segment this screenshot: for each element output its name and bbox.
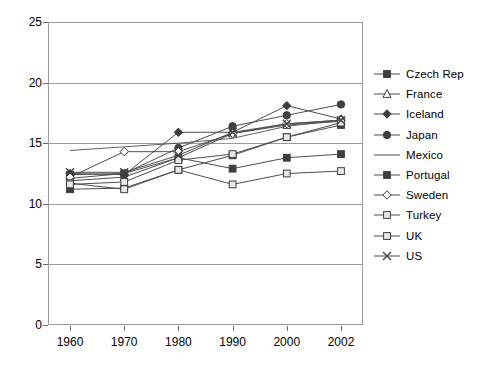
series-japan [66,101,344,182]
legend-item-label: Japan [406,129,438,141]
legend-item-label: Sweden [406,189,448,201]
legend-item-iceland[interactable]: Iceland [372,104,484,124]
legend-item-label: Czech Rep [406,68,464,80]
legend-item-czech-rep[interactable]: Czech Rep [372,64,484,84]
legend-marker-icon [372,67,402,81]
legend-item-label: US [406,250,422,262]
legend-item-uk[interactable]: UK [372,226,484,246]
legend-item-label: Mexico [406,149,443,161]
legend-item-label: Turkey [406,209,441,221]
chart-legend: Czech RepFranceIcelandJapanMexicoPortuga… [372,64,484,266]
legend-marker-icon [372,128,402,142]
legend-marker-icon [372,249,402,263]
legend-marker-icon [372,148,402,162]
legend-item-label: Portugal [406,169,450,181]
series-us [66,116,345,176]
legend-item-label: France [406,88,442,100]
legend-item-japan[interactable]: Japan [372,125,484,145]
legend-marker-icon [372,107,402,121]
series-iceland [66,101,345,178]
legend-marker-icon [372,229,402,243]
legend-marker-icon [372,208,402,222]
legend-item-us[interactable]: US [372,246,484,266]
legend-item-turkey[interactable]: Turkey [372,205,484,225]
legend-marker-icon [372,87,402,101]
legend-marker-icon [372,188,402,202]
line-chart: 0510152025 196019701980199020002002 Czec… [0,0,486,367]
legend-item-label: Iceland [406,108,444,120]
legend-item-label: UK [406,230,422,242]
legend-item-portugal[interactable]: Portugal [372,165,484,185]
series-sweden [66,116,345,181]
legend-item-sweden[interactable]: Sweden [372,185,484,205]
legend-item-mexico[interactable]: Mexico [372,145,484,165]
legend-marker-icon [372,168,402,182]
legend-item-france[interactable]: France [372,84,484,104]
